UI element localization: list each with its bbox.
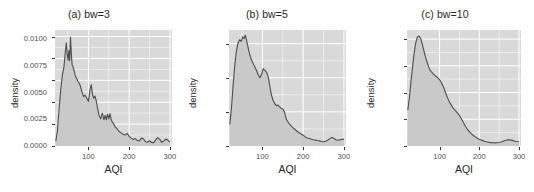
y-axis-tick-label: 0.0100 [24, 34, 47, 43]
x-axis-tick-mark [519, 147, 520, 150]
y-axis-tick-label: 0.0025 [24, 114, 47, 123]
x-axis-tick-label: 200 [459, 152, 499, 161]
y-axis-tick-mark [404, 93, 407, 94]
y-axis-tick-label: 0.0050 [24, 88, 47, 97]
x-axis-title: AQI [407, 163, 521, 175]
facet-panel-3: (c) bw=100.00000.00250.00500.00750.01001… [0, 0, 178, 192]
y-axis-tick-mark [404, 66, 407, 67]
x-axis-tick-label: 100 [420, 152, 460, 161]
x-axis-tick-mark [479, 147, 480, 150]
density-plot-figure: (a) bw=30.00000.00250.00500.00750.01000.… [0, 0, 534, 192]
y-axis-title: density [365, 78, 376, 108]
y-axis-tick-mark [404, 39, 407, 40]
y-axis-tick-label: 0.0000 [24, 141, 47, 150]
y-axis-tick-label: 0.0075 [24, 61, 47, 70]
y-axis-tick-mark [404, 146, 407, 147]
y-axis-tick-mark [404, 119, 407, 120]
x-axis-tick-mark [440, 147, 441, 150]
x-axis-tick-label: 300 [499, 152, 534, 161]
